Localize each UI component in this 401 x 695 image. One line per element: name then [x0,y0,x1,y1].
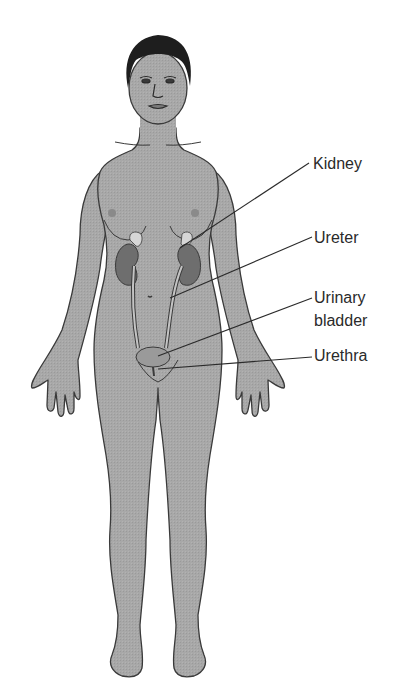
label-urethra: Urethra [314,346,367,366]
label-urinary-bladder-line1: Urinary [314,288,366,308]
urethra [153,367,154,376]
label-urinary-bladder-line2: bladder [314,311,367,331]
urinary-bladder [136,347,170,367]
label-kidney: Kidney [313,154,362,174]
face [129,52,187,124]
label-ureter: Ureter [314,228,358,248]
right-kidney [178,244,201,285]
